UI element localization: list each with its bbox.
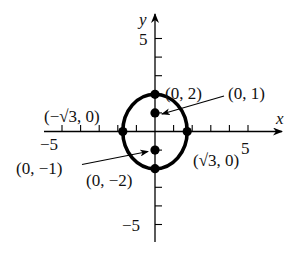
label-point-left: (−√3, 0) <box>44 107 100 126</box>
point-left <box>118 127 127 136</box>
point-right <box>183 127 192 136</box>
y-axis-label: y <box>137 10 147 29</box>
ellipse-diagram: y x 5 −5 −5 5 (0, 2) (0, 1) (−√3, 0) (√3… <box>0 0 299 256</box>
y-tick-label-5: 5 <box>139 30 148 49</box>
point-focus-down <box>150 146 159 155</box>
label-point-focus-up: (0, 1) <box>228 84 265 103</box>
label-point-focus-down: (0, −1) <box>16 159 62 178</box>
label-point-bottom: (0, −2) <box>86 171 132 190</box>
y-tick-label-neg5: −5 <box>122 216 140 235</box>
point-bottom <box>150 164 159 173</box>
point-top <box>150 90 159 99</box>
x-axis-label: x <box>275 109 284 128</box>
coordinate-plane: y x 5 −5 −5 5 (0, 2) (0, 1) (−√3, 0) (√3… <box>0 0 299 256</box>
label-point-top: (0, 2) <box>165 84 202 103</box>
point-focus-up <box>150 108 159 117</box>
label-point-right: (√3, 0) <box>193 151 239 170</box>
x-tick-label-5: 5 <box>241 139 250 158</box>
x-tick-label-neg5: −5 <box>40 135 58 154</box>
